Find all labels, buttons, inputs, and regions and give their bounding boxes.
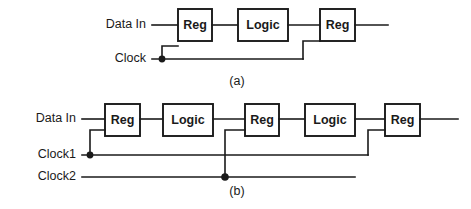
panel-a: Data In Reg Logic Reg Clock xyxy=(106,9,388,88)
panel-a-wire-clock-to-reg2 xyxy=(303,41,320,59)
figure-container: Data In Reg Logic Reg Clock xyxy=(0,0,471,209)
panel-a-block-logic-1-label: Logic xyxy=(246,18,279,32)
panel-a-clock-junction-dot xyxy=(159,56,166,63)
panel-b-wire-clock2-to-reg2 xyxy=(225,130,245,177)
panel-b-block-reg-1-label: Reg xyxy=(111,113,135,127)
panel-a-block-reg-1-label: Reg xyxy=(183,18,207,32)
panel-b-wire-clock1-to-reg1 xyxy=(90,130,105,155)
panel-b-clock2-label: Clock2 xyxy=(38,169,76,183)
panel-b-block-logic-1-label: Logic xyxy=(171,113,204,127)
panel-a-data-in-label: Data In xyxy=(106,17,146,31)
panel-a-clock-label: Clock xyxy=(115,51,147,65)
panel-b-block-logic-2-label: Logic xyxy=(313,113,346,127)
panel-b: Data In Reg Logic Reg Logic xyxy=(36,104,458,198)
panel-b-clock2-junction-dot xyxy=(221,173,229,181)
panel-b-clock1-junction-dot xyxy=(87,152,94,159)
panel-b-block-reg-2-label: Reg xyxy=(250,113,274,127)
panel-b-block-reg-3-label: Reg xyxy=(391,113,415,127)
panel-b-wire-clock1-to-reg3 xyxy=(368,130,385,155)
circuit-diagram: Data In Reg Logic Reg Clock xyxy=(0,0,471,209)
panel-b-caption: (b) xyxy=(229,184,244,198)
panel-b-clock1-label: Clock1 xyxy=(38,147,76,161)
panel-a-block-reg-2-label: Reg xyxy=(326,18,350,32)
panel-a-caption: (a) xyxy=(229,74,244,88)
panel-b-data-in-label: Data In xyxy=(36,111,76,125)
